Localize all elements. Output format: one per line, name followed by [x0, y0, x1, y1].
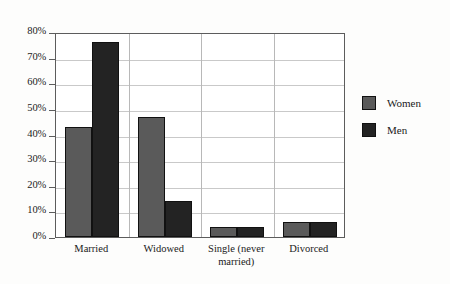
- legend-label: Women: [387, 97, 421, 109]
- y-tick-label: 10%: [27, 204, 46, 215]
- y-tick-label: 20%: [27, 179, 46, 190]
- plot-area: [55, 33, 345, 238]
- legend-item-women: Women: [362, 96, 448, 110]
- bar-group: [56, 34, 129, 237]
- legend-swatch-icon: [362, 123, 376, 137]
- bar-women-2: [210, 227, 237, 237]
- bar-group: [129, 34, 202, 237]
- x-axis-label: Divorced: [267, 243, 352, 256]
- bar-chart-figure: 80%70%60%50%40%30%20%10%0% MarriedWidowe…: [0, 0, 450, 284]
- legend-swatch-icon: [362, 96, 376, 110]
- bar-men-2: [237, 227, 264, 237]
- y-tick-label: 50%: [27, 102, 46, 113]
- bar-group: [274, 34, 347, 237]
- legend-item-men: Men: [362, 123, 448, 137]
- y-tick-label: 80%: [27, 25, 46, 36]
- y-tick-mark: [49, 238, 55, 239]
- bar-group: [201, 34, 274, 237]
- y-tick-label: 60%: [27, 76, 46, 87]
- legend-label: Men: [387, 124, 407, 136]
- chart-legend: WomenMen: [362, 96, 448, 150]
- y-tick-label: 40%: [27, 128, 46, 139]
- bar-men-3: [310, 222, 337, 237]
- bar-women-0: [65, 127, 92, 237]
- y-tick-label: 30%: [27, 153, 46, 164]
- bar-women-3: [283, 222, 310, 237]
- bar-men-1: [165, 201, 192, 237]
- bar-men-0: [92, 42, 119, 237]
- bar-women-1: [138, 117, 165, 237]
- y-axis: 80%70%60%50%40%30%20%10%0%: [0, 33, 55, 238]
- y-tick-label: 70%: [27, 51, 46, 62]
- y-tick-label: 0%: [32, 230, 46, 241]
